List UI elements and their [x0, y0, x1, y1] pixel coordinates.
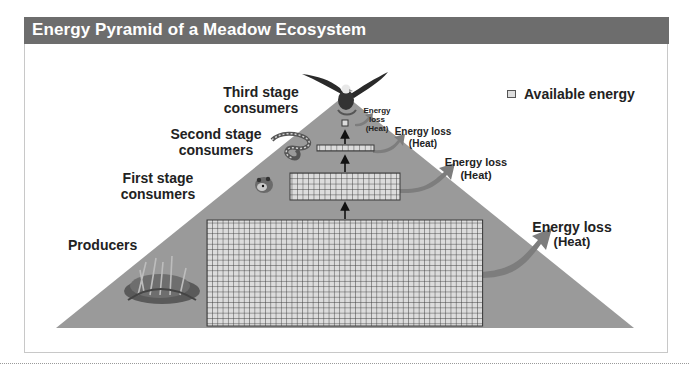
label-first-stage: First stage consumers	[116, 170, 200, 202]
dotted-divider	[0, 363, 689, 364]
legend-label: Available energy	[524, 86, 635, 102]
grid-cell-icon	[507, 90, 516, 98]
energy-loss-producers: Energy loss (Heat)	[526, 219, 618, 250]
label-second-stage: Second stage consumers	[168, 126, 264, 158]
third-stage-energy-grid	[342, 120, 348, 126]
energy-loss-second: Energy loss (Heat)	[393, 126, 453, 149]
energy-loss-first: Energy loss (Heat)	[440, 156, 512, 181]
second-stage-energy-grid	[317, 145, 374, 151]
legend: Available energy	[507, 86, 635, 102]
energy-pyramid	[0, 0, 689, 374]
label-third-stage: Third stage consumers	[222, 84, 300, 116]
label-producers: Producers	[68, 237, 137, 253]
producer-energy-grid	[207, 220, 483, 326]
first-stage-energy-grid	[290, 173, 400, 200]
